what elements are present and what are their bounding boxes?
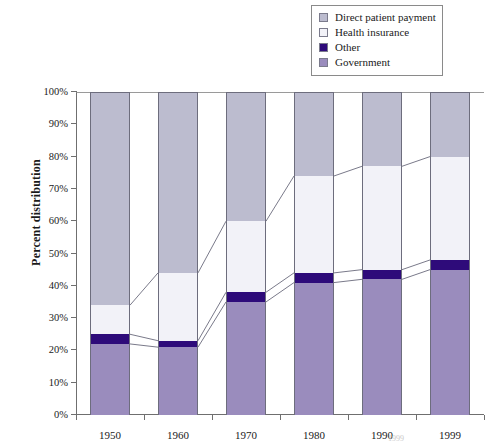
- x-tick-label: 1980: [303, 429, 325, 441]
- bar-segment-other: [362, 270, 402, 280]
- stacked-bar: [294, 92, 334, 415]
- bar-segment-health-insurance: [430, 157, 470, 260]
- legend-label-government: Government: [335, 57, 390, 68]
- y-tick-label: 100%: [44, 85, 69, 98]
- y-tick-label: 70%: [49, 182, 68, 195]
- bar-segment-health-insurance: [362, 166, 402, 269]
- stacked-bar: [158, 92, 198, 415]
- y-tick-mark: [71, 188, 77, 189]
- legend-item-other: Other: [319, 40, 436, 55]
- bar-segment-other: [294, 273, 334, 283]
- y-tick-mark: [71, 317, 77, 318]
- bar-segment-other: [226, 292, 266, 302]
- legend-label-direct-patient-payment: Direct patient payment: [335, 12, 436, 23]
- legend-swatch-other: [319, 43, 328, 52]
- x-tick-label: 1960: [167, 429, 189, 441]
- x-tick-mark: [348, 415, 349, 420]
- y-tick-mark: [71, 253, 77, 254]
- y-tick-mark: [71, 220, 77, 221]
- y-tick-label: 30%: [49, 311, 68, 324]
- y-tick-mark: [71, 91, 77, 92]
- bar-segment-other: [158, 341, 198, 347]
- bar-segment-government: [90, 344, 130, 415]
- x-tick-mark: [280, 415, 281, 420]
- y-tick-mark: [71, 123, 77, 124]
- y-tick-mark: [71, 285, 77, 286]
- bar-segment-direct-patient-payment: [158, 92, 198, 273]
- x-tick-label: 1950: [99, 429, 121, 441]
- bar-segment-direct-patient-payment: [430, 92, 470, 157]
- bar-segment-other: [430, 260, 470, 270]
- x-tick-mark: [484, 415, 485, 420]
- chart-legend: Direct patient payment Health insurance …: [311, 5, 443, 76]
- y-tick-label: 0%: [54, 408, 68, 421]
- plot-area: 0%10%20%30%40%50%60%70%80%90%100% 195019…: [76, 92, 484, 415]
- plot-frame: [76, 92, 484, 415]
- x-tick-label: 1970: [235, 429, 257, 441]
- y-tick-label: 20%: [49, 343, 68, 356]
- bar-segment-direct-patient-payment: [90, 92, 130, 305]
- bar-segment-health-insurance: [226, 221, 266, 292]
- bar-segment-government: [362, 279, 402, 415]
- stacked-bar: [430, 92, 470, 415]
- legend-label-health-insurance: Health insurance: [335, 27, 409, 38]
- bar-segment-government: [294, 283, 334, 415]
- y-tick-label: 60%: [49, 214, 68, 227]
- y-tick-mark: [71, 156, 77, 157]
- legend-swatch-health-insurance: [319, 28, 328, 37]
- legend-swatch-government: [319, 58, 328, 67]
- x-tick-mark: [76, 415, 77, 420]
- x-tick-mark: [144, 415, 145, 420]
- y-tick-mark: [71, 382, 77, 383]
- y-tick-label: 50%: [49, 247, 68, 260]
- bar-segment-direct-patient-payment: [226, 92, 266, 221]
- y-axis-title: Percent distribution: [29, 133, 44, 293]
- legend-item-direct-patient-payment: Direct patient payment: [319, 10, 436, 25]
- y-tick-label: 40%: [49, 279, 68, 292]
- legend-swatch-direct-patient-payment: [319, 13, 328, 22]
- legend-item-health-insurance: Health insurance: [319, 25, 436, 40]
- bar-segment-direct-patient-payment: [294, 92, 334, 176]
- bar-segment-government: [226, 302, 266, 415]
- stacked-bar: [362, 92, 402, 415]
- stacked-bar: [226, 92, 266, 415]
- legend-item-government: Government: [319, 55, 436, 70]
- stacked-bar: [90, 92, 130, 415]
- bar-segment-health-insurance: [294, 176, 334, 273]
- x-tick-mark: [212, 415, 213, 420]
- bar-segment-government: [158, 347, 198, 415]
- x-tick-mark: [416, 415, 417, 420]
- bar-segment-government: [430, 270, 470, 415]
- bar-segment-other: [90, 334, 130, 344]
- y-tick-label: 10%: [49, 376, 68, 389]
- x-tick-label: 1999: [439, 429, 461, 441]
- y-tick-label: 80%: [49, 150, 68, 163]
- bar-segment-health-insurance: [158, 273, 198, 341]
- bar-segment-health-insurance: [90, 305, 130, 334]
- footer-partial-text: 1999: [388, 434, 404, 443]
- y-tick-label: 90%: [49, 117, 68, 130]
- y-tick-mark: [71, 349, 77, 350]
- legend-label-other: Other: [335, 42, 360, 53]
- bar-segment-direct-patient-payment: [362, 92, 402, 166]
